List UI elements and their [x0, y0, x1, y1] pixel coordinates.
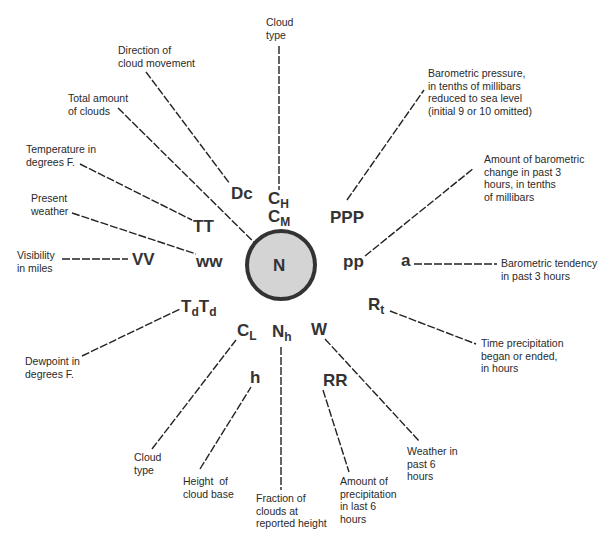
symbol-tdtd: TdTd	[181, 298, 216, 315]
label-present-weather: Present weather	[31, 192, 68, 217]
symbol-tt: TT	[193, 218, 214, 235]
symbol-rt: Rt	[368, 296, 384, 313]
symbol-pp: pp	[343, 253, 364, 270]
symbol-w: W	[311, 321, 327, 338]
label-time-precip: Time precipitation began or ended, in ho…	[481, 337, 563, 375]
leader-temperature	[80, 164, 192, 220]
symbol-n: N	[273, 257, 285, 274]
label-dewpoint: Dewpoint in degrees F.	[25, 355, 80, 380]
leader-precip-amount	[323, 390, 349, 472]
symbol-h: h	[250, 369, 260, 386]
symbol-cl: CL	[237, 322, 257, 339]
label-weather-past: Weather in past 6 hours	[407, 445, 458, 483]
label-temperature: Temperature in degrees F.	[26, 143, 96, 168]
leader-present-weather	[72, 213, 196, 254]
label-cloud-type-top: Cloud type	[266, 16, 293, 41]
label-precip-amount: Amount of precipitation in last 6 hours	[340, 475, 397, 525]
leader-time-precip	[390, 311, 476, 344]
leader-cloud-base	[200, 387, 251, 469]
symbol-a: a	[401, 252, 410, 269]
label-cloud-type-low: Cloud type	[134, 451, 161, 476]
label-baro-pressure: Barometric pressure, in tenths of millib…	[428, 67, 532, 117]
symbol-ppp: PPP	[330, 209, 364, 226]
symbol-vv: VV	[132, 251, 155, 268]
symbol-rr: RR	[323, 372, 348, 389]
label-baro-change: Amount of barometric change in past 3 ho…	[484, 153, 584, 203]
label-fraction-clouds: Fraction of clouds at reported height	[256, 492, 327, 530]
leader-baro-pressure	[347, 90, 424, 200]
leader-baro-change	[365, 168, 474, 256]
label-baro-tendency: Barometric tendency in past 3 hours	[501, 257, 597, 282]
symbol-nh: Nh	[272, 323, 292, 340]
symbol-cm: CM	[268, 208, 290, 225]
label-total-clouds: Total amount of clouds	[68, 92, 128, 117]
symbol-dc: Dc	[231, 185, 253, 202]
symbol-ww: ww	[196, 253, 222, 270]
symbol-ch: CH	[268, 190, 289, 207]
label-cloud-base: Height of cloud base	[183, 475, 234, 500]
label-direction-cloud: Direction of cloud movement	[118, 44, 195, 69]
leader-direction-cloud	[146, 72, 230, 184]
leader-weather-past	[325, 339, 420, 442]
leader-dewpoint	[82, 309, 180, 356]
label-visibility: Visibility in miles	[17, 249, 55, 274]
